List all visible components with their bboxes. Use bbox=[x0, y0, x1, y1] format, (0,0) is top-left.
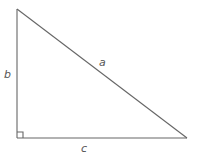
label-a: a bbox=[99, 56, 106, 69]
right-angle-marker-icon bbox=[17, 132, 23, 138]
right-triangle-diagram: b a c bbox=[0, 0, 203, 160]
label-c: c bbox=[81, 142, 87, 155]
label-b: b bbox=[4, 68, 11, 81]
side-a-hypotenuse bbox=[17, 9, 187, 138]
